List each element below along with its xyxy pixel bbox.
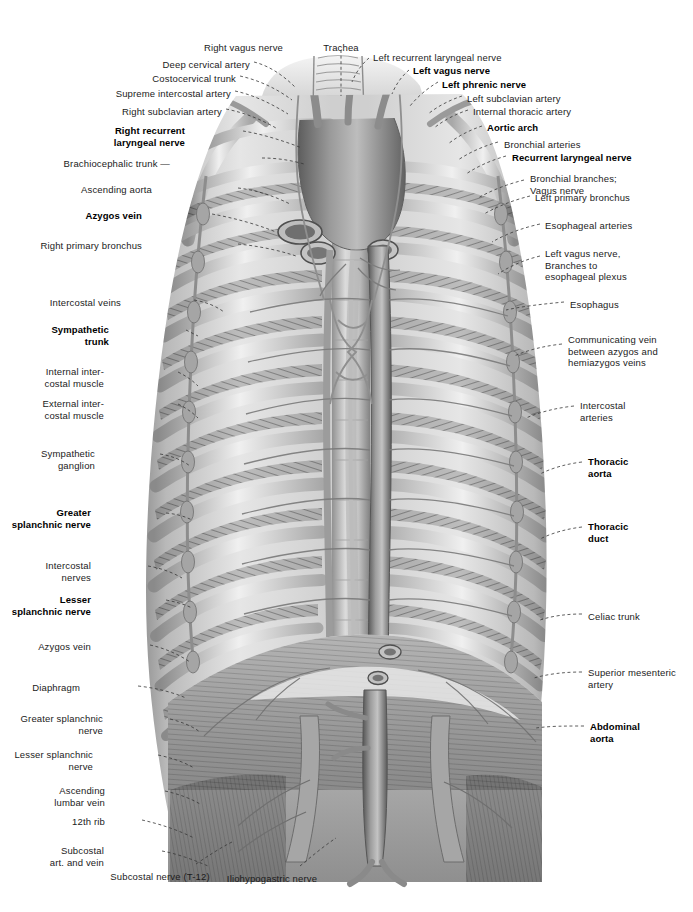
label-subcostal-art-and-vein: Subcostal art. and vein [50,845,104,868]
label-diaphragm: Diaphragm [32,682,80,694]
label-right-recurrent-laryngeal-nerve: Right recurrent laryngeal nerve [114,125,185,148]
label-aortic-arch: Aortic arch [487,122,538,134]
label-intercostal-arteries: Intercostal arteries [580,400,625,423]
label-subcostal-nerve-t12: Subcostal nerve (T-12) [110,871,209,883]
label-azygos-vein-upper: Azygos vein [85,210,142,222]
label-left-phrenic-nerve: Left phrenic nerve [442,79,526,91]
label-recurrent-laryngeal-nerve: Recurrent laryngeal nerve [512,152,632,164]
label-intercostal-veins: Intercostal veins [50,297,121,309]
label-esophagus: Esophagus [570,299,619,311]
label-left-vagus-nerve: Left vagus nerve [413,65,490,77]
label-abdominal-aorta: Abdominal aorta [590,721,640,744]
label-supreme-intercostal-artery: Supreme intercostal artery [116,88,231,100]
label-lesser-splanchnic-nerve: Lesser splanchnic nerve [12,594,91,617]
label-thoracic-duct: Thoracic duct [588,521,628,544]
great-vessels [224,80,476,264]
label-ascending-aorta: Ascending aorta [81,184,152,196]
abdominal-aorta-segment [238,645,512,884]
label-brachiocephalic-trunk: Brachiocephalic trunk — [64,158,170,170]
diaphragm [150,635,552,890]
label-greater-splanchnic-nerve-2: Greater splanchnic nerve [21,713,103,736]
label-celiac-trunk: Celiac trunk [588,611,640,623]
sympathetic-trunks [181,176,524,673]
leader-lines-left [138,62,304,866]
label-iliohypogastric-nerve: Iliohypogastric nerve [227,873,317,885]
label-left-vagus-nerve-branches: Left vagus nerve, Branches to esophageal… [545,248,627,283]
label-sympathetic-ganglion: Sympathetic ganglion [41,448,95,471]
leader-lines-bottom [196,838,336,866]
label-bronchial-arteries: Bronchial arteries [504,139,581,151]
label-azygos-vein-lower: Azygos vein [38,641,91,653]
label-right-subclavian-artery: Right subclavian artery [122,106,222,118]
label-communicating-vein: Communicating vein between azygos and he… [568,334,658,369]
label-superior-mesenteric-artery: Superior mesenteric artery [588,667,676,690]
label-internal-intercostal-muscle: Internal inter- costal muscle [45,366,105,389]
label-sympathetic-trunk: Sympathetic trunk [51,324,109,347]
label-deep-cervical-artery: Deep cervical artery [163,59,250,71]
label-trachea: Trachea [323,42,359,54]
label-right-primary-bronchus: Right primary bronchus [40,240,142,252]
label-left-subclavian-artery: Left subclavian artery [467,93,561,105]
label-greater-splanchnic-nerve: Greater splanchnic nerve [12,507,91,530]
label-left-recurrent-laryngeal-nerve: Left recurrent laryngeal nerve [373,52,502,64]
label-intercostal-nerves: Intercostal nerves [46,560,91,583]
thoracic-cavity [120,74,580,900]
anatomical-plate: Deep cervical arteryCostocervical trunkS… [0,0,693,912]
label-lesser-splanchnic-nerve-2: Lesser splanchnic nerve [14,749,93,772]
neck-region [258,56,430,122]
label-left-primary-bronchus: Left primary bronchus [535,192,630,204]
label-twelfth-rib: 12th rib [72,816,105,828]
label-thoracic-aorta: Thoracic aorta [588,456,628,479]
label-external-intercostal-muscle: External inter- costal muscle [43,398,104,421]
label-internal-thoracic-artery: Internal thoracic artery [473,106,571,118]
label-costocervical-trunk: Costocervical trunk [152,73,236,85]
label-right-vagus-nerve: Right vagus nerve [204,42,283,54]
label-esophageal-arteries: Esophageal arteries [545,220,632,232]
label-ascending-lumbar-vein: Ascending lumbar vein [54,785,105,808]
